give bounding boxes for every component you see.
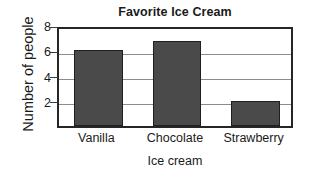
x-tick-label: Strawberry	[214, 131, 293, 145]
bar-vanilla	[74, 50, 122, 126]
y-tick-mark	[50, 77, 58, 78]
bar-chart-figure: Favorite Ice Cream Number of people Ice …	[0, 0, 310, 179]
plot-area	[57, 27, 293, 128]
bar-strawberry	[231, 101, 279, 126]
y-tick-label: 8	[11, 21, 51, 33]
x-tick-label: Chocolate	[136, 131, 215, 145]
y-tick-label: 4	[11, 72, 51, 84]
y-tick-mark	[50, 52, 58, 53]
bar-chocolate	[153, 41, 201, 126]
x-tick-label: Vanilla	[57, 131, 136, 145]
y-tick-label: 2	[11, 97, 51, 109]
x-axis-title: Ice cream	[57, 154, 293, 168]
y-tick-mark	[50, 27, 58, 28]
y-tick-mark	[50, 102, 58, 103]
chart-title: Favorite Ice Cream	[57, 5, 293, 19]
y-tick-label: 6	[11, 46, 51, 58]
